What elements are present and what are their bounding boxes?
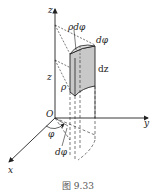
dphi-bottom-label: dφ [55, 147, 68, 157]
base-radius-2 [55, 118, 70, 140]
dz-label: dz [98, 64, 109, 74]
cylindrical-volume-element-diagram: z ρdφ dφ dz z ρ O y φ dφ x 图 9.33 [0, 0, 161, 195]
phi-angle-arc [46, 124, 64, 129]
base-sector-arc [78, 140, 95, 160]
dphi-top-label: dφ [96, 35, 109, 45]
x-axis-label: x [8, 165, 13, 175]
rho-dphi-pointer [74, 30, 76, 50]
y-axis-label: y [143, 118, 150, 128]
base-radius-3 [55, 118, 68, 126]
volume-element-front-face [70, 46, 95, 96]
rho-label: ρ [60, 82, 67, 92]
z-axis-label: z [47, 5, 53, 15]
phi-label: φ [48, 129, 55, 139]
figure-caption: 图 9.33 [62, 181, 94, 191]
rho-dphi-label: ρdφ [67, 22, 86, 32]
dphi-pointer [62, 128, 67, 146]
z-height-label: z [46, 72, 52, 82]
x-axis [9, 118, 55, 162]
origin-label: O [46, 109, 54, 119]
